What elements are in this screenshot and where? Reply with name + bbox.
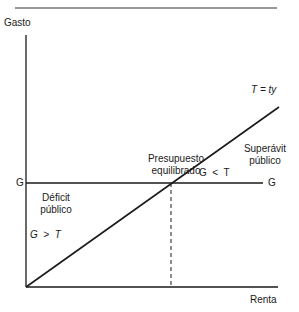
deficit-label: Déficit público xyxy=(36,192,76,216)
deficit-condition: G > T xyxy=(30,229,61,241)
surplus-label-line1: Superávit xyxy=(240,143,290,155)
balanced-label-line2: equilibrado xyxy=(146,165,206,177)
balanced-label-line1: Presupuesto xyxy=(146,153,206,165)
y-axis-label: Gasto xyxy=(4,17,31,29)
balanced-budget-label: Presupuesto equilibrado xyxy=(146,153,206,177)
deficit-label-line1: Déficit xyxy=(36,192,76,204)
tax-line-label: T = ty xyxy=(251,84,276,96)
deficit-label-line2: público xyxy=(36,204,76,216)
surplus-condition: G < T xyxy=(199,167,230,179)
surplus-label-line2: público xyxy=(240,155,290,167)
surplus-label: Superávit público xyxy=(240,143,290,167)
g-right-label: G xyxy=(268,177,276,189)
g-left-label: G xyxy=(16,177,24,189)
x-axis-label: Renta xyxy=(250,294,277,306)
